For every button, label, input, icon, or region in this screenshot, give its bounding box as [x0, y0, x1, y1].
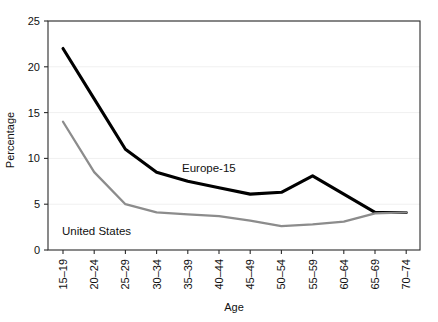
- x-tick-labels: 15–1920–2425–2930–3435–3940–4445–4950–54…: [57, 259, 412, 290]
- y-axis-title: Percentage: [4, 112, 16, 168]
- x-tick-label: 15–19: [57, 259, 69, 290]
- y-tick-label: 0: [34, 244, 40, 256]
- x-tick-label: 40–44: [213, 259, 225, 290]
- line-chart: 0510152025 15–1920–2425–2930–3435–3940–4…: [0, 0, 438, 322]
- y-tick-label: 25: [28, 15, 40, 27]
- series-annotations: Europe-15United States: [62, 162, 236, 237]
- y-tick-label: 5: [34, 198, 40, 210]
- x-tick-label: 20–24: [88, 259, 100, 290]
- series-line: [63, 48, 406, 212]
- series-label: United States: [62, 225, 131, 237]
- x-tick-label: 65–69: [369, 259, 381, 290]
- y-tick-label: 15: [28, 107, 40, 119]
- x-tick-label: 45–49: [244, 259, 256, 290]
- x-tick-label: 25–29: [119, 259, 131, 290]
- x-tick-label: 55–59: [307, 259, 319, 290]
- y-tick-labels: 0510152025: [28, 15, 40, 256]
- x-axis-title: Age: [224, 301, 244, 313]
- series-label: Europe-15: [182, 162, 236, 174]
- x-tick-label: 70–74: [400, 259, 412, 290]
- x-tick-label: 50–54: [275, 259, 287, 290]
- y-axis-ticks: [44, 21, 48, 250]
- y-tick-label: 10: [28, 152, 40, 164]
- x-axis-ticks: [63, 250, 406, 254]
- y-tick-label: 20: [28, 61, 40, 73]
- x-tick-label: 60–64: [338, 259, 350, 290]
- data-series: [63, 48, 406, 226]
- x-tick-label: 35–39: [182, 259, 194, 290]
- chart-container: 0510152025 15–1920–2425–2930–3435–3940–4…: [0, 0, 438, 322]
- x-tick-label: 30–34: [151, 259, 163, 290]
